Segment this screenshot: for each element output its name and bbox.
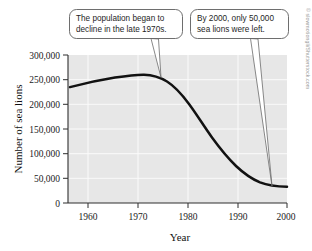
x-axis-tick-labels: 1960 1970 1980 1990 2000 [79, 212, 296, 222]
y-axis-tick-labels: 300,000 250,000 200,000 150,000 100,000 … [29, 51, 60, 209]
annotation-decline-line-1: The population began to [76, 14, 165, 23]
annotation-2000-line-2: sea lions were left. [197, 25, 265, 34]
x-axis-title: Year [170, 231, 191, 243]
x-axis-ticks [88, 203, 287, 208]
y-tick-label: 250,000 [29, 75, 60, 85]
y-tick-label: 50,000 [34, 174, 60, 184]
y-tick-label: 100,000 [29, 149, 60, 159]
x-tick-label: 1980 [179, 212, 198, 222]
x-tick-label: 1960 [79, 212, 98, 222]
annotation-2000-line-1: By 2000, only 50,000 [197, 14, 274, 23]
x-tick-label: 1990 [229, 212, 248, 222]
y-tick-label: 0 [55, 199, 60, 209]
annotation-decline-line-2: decline in the late 1970s. [76, 25, 167, 34]
chart-canvas: 300,000 250,000 200,000 150,000 100,000 … [0, 0, 312, 251]
x-tick-label: 2000 [277, 212, 296, 222]
sea-lion-population-figure: 300,000 250,000 200,000 150,000 100,000 … [0, 0, 312, 251]
x-tick-label: 1970 [129, 212, 148, 222]
y-tick-label: 150,000 [29, 125, 60, 135]
y-tick-label: 200,000 [29, 100, 60, 110]
y-axis-ticks [63, 55, 68, 203]
y-tick-label: 300,000 [29, 51, 60, 61]
y-axis-title: Number of sea lions [12, 85, 24, 174]
